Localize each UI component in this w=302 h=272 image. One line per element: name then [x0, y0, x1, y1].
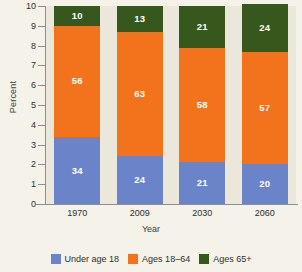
bar-value-label: 13	[134, 14, 145, 24]
x-axis-tick-label: 1970	[42, 208, 112, 218]
legend-swatch	[51, 254, 61, 264]
y-axis-tick-label: 2	[16, 160, 36, 169]
y-axis-tick-label: 10	[16, 2, 36, 11]
y-axis-tick-label: 7	[16, 61, 36, 70]
y-axis-tick-label: 8	[16, 42, 36, 51]
y-axis-tick-label: 9	[16, 22, 36, 31]
bar-value-label: 63	[134, 89, 145, 99]
y-axis-tick	[38, 6, 45, 7]
legend-item[interactable]: Under age 18	[51, 254, 120, 264]
bar-value-label: 24	[134, 175, 145, 185]
legend-label: Ages 18–64	[142, 254, 190, 264]
y-axis-tick	[38, 204, 45, 205]
chart-legend: Under age 18Ages 18–64Ages 65+	[0, 254, 302, 264]
y-axis-tick	[38, 46, 45, 47]
bar-segment: 20	[242, 164, 288, 204]
x-axis-tick-label: 2060	[230, 208, 300, 218]
legend-swatch	[128, 254, 138, 264]
y-axis-line	[45, 6, 46, 205]
bar-segment: 13	[117, 6, 163, 32]
bar-segment: 63	[117, 32, 163, 157]
y-axis-tick	[38, 125, 45, 126]
y-axis-tick-label: 6	[16, 81, 36, 90]
x-axis-tick-label: 2009	[105, 208, 175, 218]
bar-value-label: 21	[197, 178, 208, 188]
y-axis-tick-label: 3	[16, 141, 36, 150]
bar-value-label: 10	[72, 11, 83, 21]
bar-segment: 10	[54, 6, 100, 26]
bar-stack: 245720	[242, 4, 288, 204]
y-axis-title: Percent	[8, 67, 18, 127]
bar-value-label: 56	[72, 76, 83, 86]
bar-stack: 105634	[54, 6, 100, 204]
bar-segment: 58	[179, 48, 225, 163]
bar-segment: 24	[117, 156, 163, 204]
y-axis-tick-label: 4	[16, 121, 36, 130]
y-axis-tick	[38, 184, 45, 185]
y-axis-tick	[38, 145, 45, 146]
bar-segment: 21	[179, 6, 225, 48]
y-axis-tick	[38, 85, 45, 86]
y-axis-tick	[38, 65, 45, 66]
x-axis-title: Year	[0, 224, 302, 234]
y-axis-tick-label: 0	[16, 200, 36, 209]
legend-item[interactable]: Ages 18–64	[128, 254, 190, 264]
y-axis-tick-label: 1	[16, 180, 36, 189]
y-axis-tick	[38, 26, 45, 27]
bar-value-label: 57	[259, 103, 270, 113]
bar-value-label: 20	[259, 179, 270, 189]
stacked-bar-chart: Percent 012345678910 1056341363242158212…	[0, 0, 302, 272]
y-axis-tick	[38, 105, 45, 106]
legend-item[interactable]: Ages 65+	[199, 254, 251, 264]
legend-swatch	[199, 254, 209, 264]
bar-segment: 57	[242, 52, 288, 165]
y-axis-tick	[38, 164, 45, 165]
x-axis-tick-label: 2030	[167, 208, 237, 218]
bar-segment: 24	[242, 4, 288, 52]
bar-value-label: 58	[197, 100, 208, 110]
bar-segment: 21	[179, 162, 225, 204]
legend-label: Ages 65+	[213, 254, 251, 264]
y-axis-tick-label: 5	[16, 101, 36, 110]
bar-segment: 34	[54, 137, 100, 204]
bar-value-label: 34	[72, 166, 83, 176]
bar-value-label: 24	[259, 23, 270, 33]
x-axis-line	[36, 204, 298, 205]
legend-label: Under age 18	[65, 254, 120, 264]
bar-stack: 136324	[117, 6, 163, 204]
bar-value-label: 21	[197, 22, 208, 32]
bar-segment: 56	[54, 26, 100, 137]
bar-stack: 215821	[179, 6, 225, 204]
